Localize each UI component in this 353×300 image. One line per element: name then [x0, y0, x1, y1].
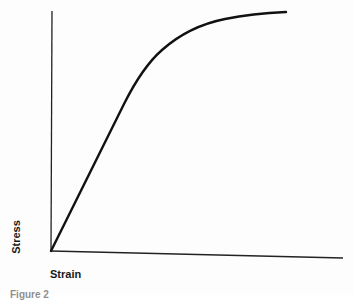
x-axis-label: Strain: [50, 268, 81, 280]
figure-caption: Figure 2: [10, 289, 49, 300]
y-axis: [51, 11, 52, 251]
stress-strain-curve: [51, 12, 286, 251]
y-axis-label: Stress: [10, 220, 22, 254]
x-axis: [51, 251, 343, 258]
